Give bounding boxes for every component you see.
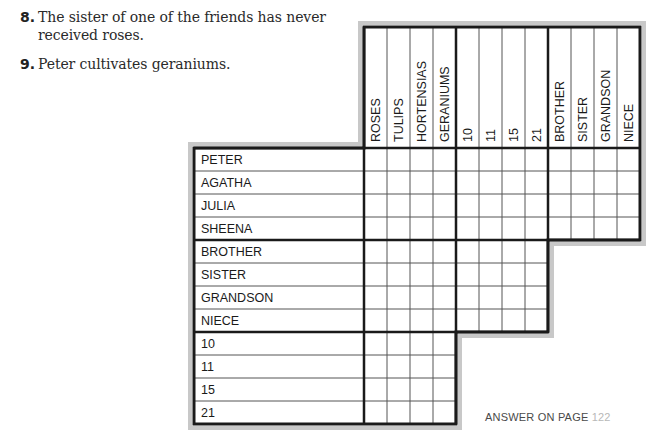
- grid-cell[interactable]: [525, 194, 548, 217]
- grid-cell[interactable]: [410, 332, 433, 355]
- grid-cell[interactable]: [433, 171, 456, 194]
- grid-cell[interactable]: [410, 263, 433, 286]
- grid-cell[interactable]: [456, 148, 479, 171]
- grid-cell[interactable]: [617, 194, 640, 217]
- grid-cell[interactable]: [594, 194, 617, 217]
- grid-cell[interactable]: [479, 286, 502, 309]
- grid-cell[interactable]: [387, 263, 410, 286]
- grid-cell[interactable]: [479, 240, 502, 263]
- row-header-label: SHEENA: [201, 222, 253, 236]
- grid-cell[interactable]: [387, 378, 410, 401]
- grid-cell[interactable]: [571, 194, 594, 217]
- grid-cell[interactable]: [456, 240, 479, 263]
- grid-cell[interactable]: [410, 309, 433, 332]
- grid-cell[interactable]: [594, 148, 617, 171]
- grid-cell[interactable]: [617, 217, 640, 240]
- grid-cell[interactable]: [502, 286, 525, 309]
- column-header-label: 11: [484, 129, 498, 142]
- grid-cell[interactable]: [479, 171, 502, 194]
- grid-cell[interactable]: [479, 194, 502, 217]
- grid-cell[interactable]: [456, 263, 479, 286]
- grid-cell[interactable]: [364, 171, 387, 194]
- grid-cell[interactable]: [502, 171, 525, 194]
- grid-cell[interactable]: [433, 286, 456, 309]
- grid-cell[interactable]: [525, 148, 548, 171]
- grid-cell[interactable]: [387, 240, 410, 263]
- row-header-label: 10: [201, 337, 215, 351]
- grid-cell[interactable]: [410, 378, 433, 401]
- grid-cell[interactable]: [433, 332, 456, 355]
- grid-cell[interactable]: [387, 194, 410, 217]
- grid-cell[interactable]: [364, 263, 387, 286]
- grid-cell[interactable]: [456, 194, 479, 217]
- grid-cell[interactable]: [525, 240, 548, 263]
- grid-cell[interactable]: [364, 355, 387, 378]
- grid-cell[interactable]: [433, 263, 456, 286]
- grid-cell[interactable]: [525, 309, 548, 332]
- grid-cell[interactable]: [594, 217, 617, 240]
- grid-cell[interactable]: [548, 217, 571, 240]
- grid-cell[interactable]: [525, 263, 548, 286]
- grid-cell[interactable]: [433, 309, 456, 332]
- grid-cell[interactable]: [571, 171, 594, 194]
- grid-cell[interactable]: [502, 240, 525, 263]
- grid-cell[interactable]: [364, 378, 387, 401]
- grid-cell[interactable]: [410, 217, 433, 240]
- grid-cell[interactable]: [502, 148, 525, 171]
- grid-cell[interactable]: [456, 309, 479, 332]
- grid-cell[interactable]: [387, 217, 410, 240]
- grid-cell[interactable]: [410, 148, 433, 171]
- grid-cell[interactable]: [387, 332, 410, 355]
- grid-cell[interactable]: [617, 171, 640, 194]
- grid-cell[interactable]: [387, 309, 410, 332]
- grid-cell[interactable]: [364, 194, 387, 217]
- grid-cell[interactable]: [525, 286, 548, 309]
- grid-cell[interactable]: [364, 286, 387, 309]
- grid-cell[interactable]: [410, 171, 433, 194]
- grid-cell[interactable]: [364, 401, 387, 424]
- grid-cell[interactable]: [387, 171, 410, 194]
- grid-cell[interactable]: [479, 309, 502, 332]
- grid-cell[interactable]: [387, 148, 410, 171]
- grid-cell[interactable]: [479, 263, 502, 286]
- grid-cell[interactable]: [364, 240, 387, 263]
- grid-cell[interactable]: [387, 286, 410, 309]
- grid-cell[interactable]: [571, 148, 594, 171]
- grid-cell[interactable]: [433, 148, 456, 171]
- grid-cell[interactable]: [548, 148, 571, 171]
- grid-cell[interactable]: [456, 217, 479, 240]
- grid-cell[interactable]: [525, 171, 548, 194]
- grid-cell[interactable]: [410, 194, 433, 217]
- grid-cell[interactable]: [387, 355, 410, 378]
- grid-cell[interactable]: [433, 240, 456, 263]
- grid-cell[interactable]: [548, 171, 571, 194]
- grid-cell[interactable]: [502, 309, 525, 332]
- grid-cell[interactable]: [571, 217, 594, 240]
- grid-cell[interactable]: [410, 286, 433, 309]
- grid-cell[interactable]: [617, 148, 640, 171]
- grid-cell[interactable]: [410, 240, 433, 263]
- grid-cell[interactable]: [433, 217, 456, 240]
- grid-cell[interactable]: [456, 171, 479, 194]
- grid-cell[interactable]: [594, 171, 617, 194]
- grid-cell[interactable]: [502, 194, 525, 217]
- grid-cell[interactable]: [433, 194, 456, 217]
- grid-cell[interactable]: [364, 217, 387, 240]
- grid-cell[interactable]: [364, 309, 387, 332]
- grid-cell[interactable]: [410, 355, 433, 378]
- grid-cell[interactable]: [502, 263, 525, 286]
- grid-cell[interactable]: [433, 401, 456, 424]
- grid-cell[interactable]: [410, 401, 433, 424]
- grid-cell[interactable]: [433, 378, 456, 401]
- grid-cell[interactable]: [364, 148, 387, 171]
- grid-cell[interactable]: [502, 217, 525, 240]
- grid-cell[interactable]: [548, 194, 571, 217]
- grid-cell[interactable]: [479, 217, 502, 240]
- grid-cell[interactable]: [479, 148, 502, 171]
- grid-cell[interactable]: [387, 401, 410, 424]
- row-header-label: AGATHA: [201, 176, 252, 190]
- grid-cell[interactable]: [456, 286, 479, 309]
- grid-cell[interactable]: [364, 332, 387, 355]
- grid-cell[interactable]: [525, 217, 548, 240]
- grid-cell[interactable]: [433, 355, 456, 378]
